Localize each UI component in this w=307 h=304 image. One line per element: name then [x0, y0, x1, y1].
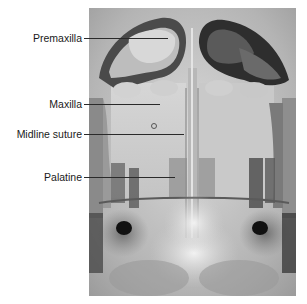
leader-line-premaxilla — [84, 38, 168, 39]
anatomical-figure: Premaxilla Maxilla Midline suture Palati… — [0, 0, 307, 304]
leader-line-palatine — [84, 177, 175, 178]
radiograph-image — [89, 8, 296, 296]
label-maxilla: Maxilla — [12, 98, 82, 110]
palate-radiograph — [89, 8, 296, 296]
label-midline-suture: Midline suture — [0, 128, 82, 140]
label-palatine: Palatine — [12, 171, 82, 183]
leader-line-midline-suture — [84, 134, 184, 135]
label-premaxilla: Premaxilla — [12, 32, 82, 44]
leader-line-maxilla — [84, 104, 160, 105]
